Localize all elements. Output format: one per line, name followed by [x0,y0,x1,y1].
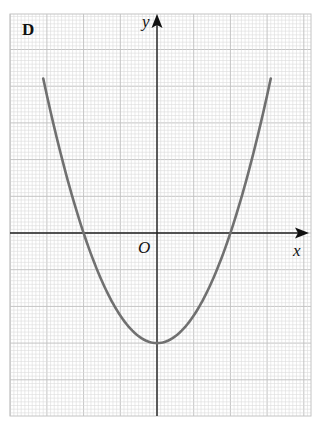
origin-label: O [138,238,150,257]
axes [10,14,309,416]
parabola-graph: D y x O [0,0,317,427]
x-axis-label: x [292,241,301,260]
panel-label: D [22,20,34,39]
y-axis-label: y [140,12,150,31]
graph-paper-grid [10,14,311,416]
